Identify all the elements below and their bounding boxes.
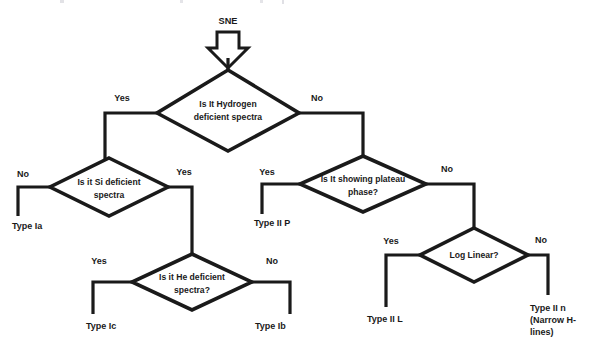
edge-si-no: [18, 187, 50, 216]
edge-si-yes: [168, 187, 192, 256]
si-text-line-1: Is it Si deficient: [77, 177, 140, 187]
edge-plateau-no: [426, 184, 474, 230]
plateau-text-line-2: phase?: [348, 187, 378, 197]
cropped-header-artifact: [60, 0, 284, 4]
decision-node-loglinear[interactable]: Log Linear?: [420, 228, 528, 282]
terminal-type-iin-line-1: Type II n: [530, 303, 566, 313]
decision-node-plateau[interactable]: Is It showing plateau phase?: [300, 156, 426, 212]
flowchart-canvas: SNE Is It Hydrogen deficient spectra Is: [0, 0, 607, 347]
edge-he-yes: [93, 282, 132, 314]
hydrogen-text-line-1: Is It Hydrogen: [199, 99, 256, 109]
terminal-type-iil: Type II L: [367, 314, 403, 324]
terminal-type-ib: Type Ib: [255, 321, 286, 331]
terminal-type-iin-line-2: (Narrow H-: [530, 315, 576, 325]
plateau-text-line-1: Is It showing plateau: [321, 174, 406, 184]
edge-label-plateau-yes: Yes: [259, 167, 275, 177]
decision-node-he[interactable]: Is it He deficient spectra?: [132, 254, 252, 310]
edge-label-he-yes: Yes: [91, 256, 107, 266]
edge-label-he-no: No: [266, 256, 278, 266]
terminal-type-iip: Type II P: [254, 218, 290, 228]
edge-he-no: [252, 282, 290, 314]
edge-loglinear-no: [528, 255, 548, 295]
he-text-line-1: Is it He deficient: [159, 272, 225, 282]
edge-label-hydrogen-yes: Yes: [114, 93, 130, 103]
start-label: SNE: [219, 16, 238, 26]
edge-hydrogen-yes: [105, 113, 157, 163]
decision-node-si[interactable]: Is it Si deficient spectra: [50, 158, 168, 216]
flowchart-svg: SNE Is It Hydrogen deficient spectra Is: [0, 0, 607, 347]
edge-label-loglinear-yes: Yes: [383, 236, 399, 246]
edge-plateau-yes: [262, 184, 300, 214]
edge-hydrogen-no: [299, 113, 363, 158]
edge-label-si-no: No: [17, 169, 29, 179]
terminal-type-iin-line-3: lines): [530, 327, 554, 337]
edge-label-loglinear-no: No: [535, 235, 547, 245]
hydrogen-text-line-2: deficient spectra: [194, 112, 263, 122]
si-text-line-2: spectra: [94, 190, 125, 200]
edge-label-si-yes: Yes: [176, 167, 192, 177]
loglinear-text-line-1: Log Linear?: [449, 250, 498, 260]
edge-label-hydrogen-no: No: [311, 93, 323, 103]
decision-node-hydrogen[interactable]: Is It Hydrogen deficient spectra: [157, 70, 299, 151]
edge-loglinear-yes: [386, 255, 420, 307]
he-text-line-2: spectra?: [174, 285, 210, 295]
edge-label-plateau-no: No: [441, 164, 453, 174]
hydrogen-diamond-shape: [157, 70, 299, 151]
terminal-type-ia: Type Ia: [12, 221, 43, 231]
terminal-type-ic: Type Ic: [86, 321, 116, 331]
